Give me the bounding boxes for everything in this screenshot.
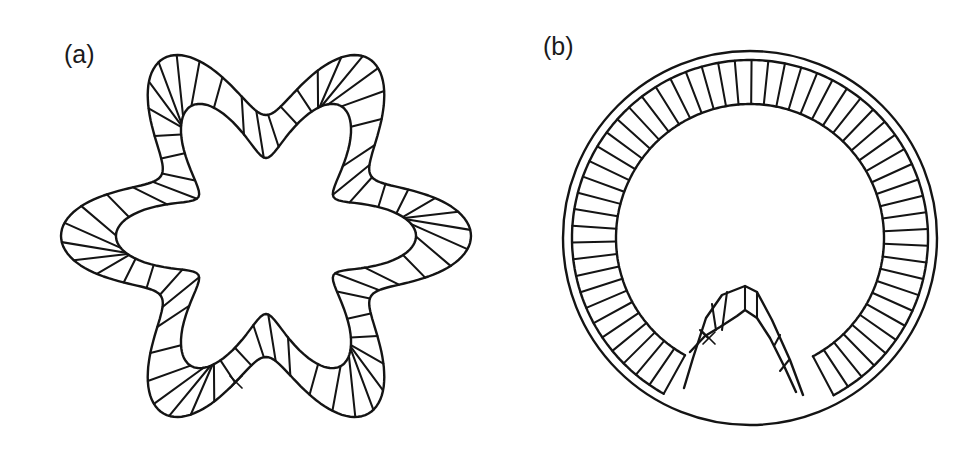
hatch-line [268,115,279,147]
hatch-line [880,196,923,206]
circle-outer-boundary [563,51,937,425]
hatch-line [161,153,184,158]
hatch-line [812,80,832,119]
hatch-line [586,291,626,308]
hatch-line [177,55,183,116]
hatch-line [880,269,923,279]
hatch-line [74,254,128,260]
hatch-line [396,190,408,214]
hatch-line [154,368,204,404]
hatch-line [576,267,619,276]
hatch-line [191,365,212,415]
hatch-line [883,212,927,218]
hatch-line [214,77,222,107]
hatch-line [253,325,264,357]
arch-inner-boundary [690,310,796,392]
hatch-line [378,184,385,207]
hatch-line [718,63,726,106]
hatch-line [350,177,372,202]
hatch-line [153,182,197,199]
hatch-line [406,219,470,230]
hatch-line [328,68,378,104]
hatch-line [62,242,126,253]
hatch-line [702,67,714,109]
hatch-line [686,72,702,113]
hatch-line [191,61,199,106]
hatch-line [801,73,818,114]
wavy-ring-inner-boundary [116,104,416,368]
hatch-line [162,174,195,181]
hatch-line [735,61,739,105]
hatch-line [764,61,769,105]
hatch-line [416,236,451,265]
panel-b-circular-ring [563,51,937,425]
hatch-line [883,256,927,262]
hatch-line [877,180,919,194]
hatch-line [351,119,382,127]
hatch-line [320,57,341,107]
hatch-line [877,281,919,295]
hatch-line [813,356,834,395]
hatch-line [155,134,181,136]
hatch-line [81,206,116,235]
hatch-line [884,244,928,246]
panel-a-wavy-ring [61,55,471,417]
figure-canvas [0,0,979,466]
hatch-line [332,366,340,411]
hatch-line [583,177,624,192]
hatch-line [872,293,912,311]
hatch-line [335,273,379,290]
hatch-line [160,270,182,295]
x-marker-icon [230,376,242,388]
hatch-line [572,241,616,242]
hatch-line [884,229,928,231]
hatch-line [351,336,377,338]
circle-band-inner-boundary [616,104,884,356]
hatch-line [242,96,244,134]
hatch-line [337,292,370,299]
hatch-line [310,364,318,394]
hatch-line [365,268,399,285]
hatch-line [774,335,780,346]
hatch-line [589,161,629,180]
hatch-line [349,356,355,417]
hatch-line [281,107,297,125]
hatch-line [133,187,167,204]
hatch-line [872,164,912,182]
hatch-line [148,366,191,381]
hatch-line [347,313,370,318]
wavy-ring-outer-boundary [61,55,471,417]
hatch-line [580,279,622,292]
hatch-line [776,63,785,106]
hatch-line [297,90,312,112]
hatch-line [147,265,154,288]
hatch-line [235,348,251,366]
hatch-line [403,255,425,278]
hatch-line [405,212,459,218]
hatch-line [578,193,621,204]
hatch-line [594,302,633,323]
hatch-line [288,337,290,375]
hatch-line [341,91,384,106]
hatch-line [150,345,181,353]
wavy-ring-hatching [62,55,470,417]
hatch-line [670,79,690,118]
hatch-line [572,226,616,229]
hatch-line [124,259,136,283]
hatch-line [789,68,802,110]
hatch-line [573,254,617,259]
hatch-line [107,194,129,217]
hatch-line [574,209,617,216]
